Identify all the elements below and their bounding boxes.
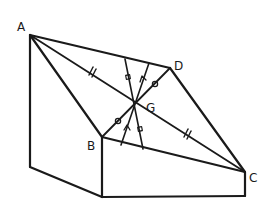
point-label-d: D	[174, 60, 183, 72]
diagram-canvas	[0, 0, 273, 212]
point-label-a: A	[17, 21, 25, 33]
diagonals	[30, 35, 245, 172]
point-label-g: G	[146, 102, 155, 114]
point-label-c: C	[249, 172, 257, 184]
parallelogram-diagram: A D G B C	[0, 0, 273, 212]
transversals	[121, 59, 149, 149]
point-label-b: B	[87, 140, 95, 152]
